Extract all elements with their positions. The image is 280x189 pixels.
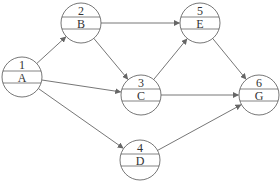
- node-1: 1A: [2, 57, 42, 97]
- network-diagram: 1A2B3C4D5E6G: [0, 0, 280, 189]
- edge-1-to-2: [37, 37, 66, 64]
- node-label: C: [137, 89, 145, 103]
- node-6: 6G: [239, 75, 279, 115]
- node-label: D: [136, 154, 145, 168]
- edge-2-to-3: [94, 38, 128, 79]
- edge-5-to-6: [213, 38, 246, 79]
- node-3: 3C: [121, 75, 161, 115]
- node-label: B: [77, 17, 85, 31]
- edge-4-to-6: [158, 105, 241, 151]
- node-label: G: [255, 89, 264, 103]
- node-label: A: [18, 71, 27, 85]
- edge-1-to-4: [38, 89, 123, 149]
- node-label: E: [196, 17, 203, 31]
- nodes: 1A2B3C4D5E6G: [2, 3, 279, 180]
- node-5: 5E: [180, 3, 220, 43]
- node-2: 2B: [61, 3, 101, 43]
- edge-3-to-5: [154, 39, 187, 80]
- edge-1-to-3: [42, 80, 121, 92]
- node-4: 4D: [120, 140, 160, 180]
